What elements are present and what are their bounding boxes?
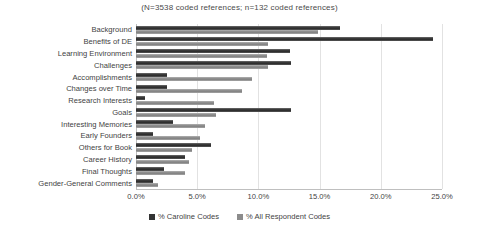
category-label: Accomplishments — [0, 73, 132, 82]
category-label: Career History — [0, 155, 132, 164]
bar-group — [136, 59, 442, 71]
bar-group — [136, 24, 442, 36]
bar-all-respondent — [136, 148, 192, 152]
bar-caroline — [136, 108, 291, 112]
bar-group — [136, 130, 442, 142]
x-tick-label: 5.0% — [167, 192, 227, 201]
category-label: Final Thoughts — [0, 167, 132, 176]
x-tick-label: 15.0% — [290, 192, 350, 201]
gridline — [442, 24, 443, 189]
bar-all-respondent — [136, 42, 268, 46]
legend-item[interactable]: % All Respondent Codes — [237, 212, 330, 221]
category-label: Goals — [0, 108, 132, 117]
bar-caroline — [136, 49, 290, 53]
bar-all-respondent — [136, 77, 252, 81]
category-label: Early Founders — [0, 131, 132, 140]
bar-chart: (N=3538 coded references; n=132 coded re… — [0, 0, 479, 236]
bar-group — [136, 118, 442, 130]
bar-caroline — [136, 73, 167, 77]
bar-group — [136, 177, 442, 189]
bar-group — [136, 165, 442, 177]
bar-all-respondent — [136, 124, 205, 128]
x-tick-label: 10.0% — [228, 192, 288, 201]
bar-caroline — [136, 37, 433, 41]
category-label: Learning Environment — [0, 49, 132, 58]
bar-caroline — [136, 26, 340, 30]
category-label: Benefits of DE — [0, 37, 132, 46]
bar-caroline — [136, 85, 167, 89]
x-tick-label: 0.0% — [106, 192, 166, 201]
legend-swatch-icon — [237, 214, 243, 220]
plot-area — [136, 24, 442, 189]
bar-all-respondent — [136, 171, 185, 175]
bar-group — [136, 95, 442, 107]
bar-group — [136, 36, 442, 48]
bar-caroline — [136, 132, 153, 136]
bar-all-respondent — [136, 101, 214, 105]
category-label: Changes over Time — [0, 84, 132, 93]
bar-caroline — [136, 61, 291, 65]
category-label: Background — [0, 25, 132, 34]
legend-label: % All Respondent Codes — [246, 212, 330, 221]
legend-label: % Caroline Codes — [158, 212, 219, 221]
bar-group — [136, 154, 442, 166]
bar-all-respondent — [136, 113, 216, 117]
category-label: Research Interests — [0, 96, 132, 105]
category-label: Others for Book — [0, 143, 132, 152]
x-tick-label: 20.0% — [351, 192, 411, 201]
bar-caroline — [136, 120, 173, 124]
bar-caroline — [136, 143, 211, 147]
bar-group — [136, 48, 442, 60]
bar-group — [136, 107, 442, 119]
bar-group — [136, 83, 442, 95]
legend-item[interactable]: % Caroline Codes — [149, 212, 219, 221]
x-tick-label: 25.0% — [412, 192, 472, 201]
bar-all-respondent — [136, 136, 200, 140]
category-label: Challenges — [0, 61, 132, 70]
bar-all-respondent — [136, 54, 267, 58]
bar-all-respondent — [136, 89, 242, 93]
bar-caroline — [136, 96, 145, 100]
category-label: Gender-General Comments — [0, 179, 132, 188]
bar-all-respondent — [136, 30, 318, 34]
x-axis-tick-labels: 0.0%5.0%10.0%15.0%20.0%25.0% — [0, 192, 479, 204]
chart-title: (N=3538 coded references; n=132 coded re… — [0, 3, 479, 12]
bar-group — [136, 71, 442, 83]
x-axis-line — [136, 189, 442, 190]
bar-all-respondent — [136, 65, 268, 69]
bar-caroline — [136, 167, 164, 171]
chart-legend: % Caroline Codes% All Respondent Codes — [0, 212, 479, 221]
bar-group — [136, 142, 442, 154]
bar-all-respondent — [136, 183, 158, 187]
category-axis-labels: BackgroundBenefits of DELearning Environ… — [0, 24, 132, 189]
bar-caroline — [136, 179, 153, 183]
bar-caroline — [136, 155, 185, 159]
category-label: Interesting Memories — [0, 120, 132, 129]
bar-all-respondent — [136, 160, 189, 164]
legend-swatch-icon — [149, 214, 155, 220]
